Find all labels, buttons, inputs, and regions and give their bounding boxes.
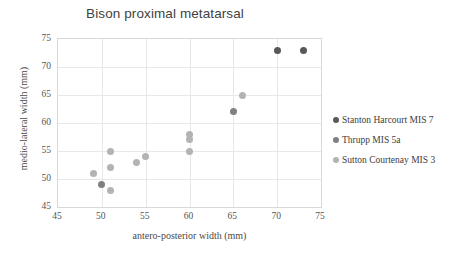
y-axis-tick-label: 55 bbox=[31, 145, 51, 155]
x-axis-tick-label: 75 bbox=[315, 211, 325, 221]
x-axis-tick-label: 55 bbox=[140, 211, 150, 221]
legend-item-label: Sutton Courtenay MIS 3 bbox=[342, 155, 435, 165]
y-axis-tick-label: 50 bbox=[31, 173, 51, 183]
legend-marker-icon bbox=[333, 137, 339, 143]
x-axis-tick-label: 65 bbox=[228, 211, 238, 221]
data-point bbox=[90, 170, 97, 177]
y-axis-tick-label: 70 bbox=[31, 61, 51, 71]
data-point bbox=[107, 148, 114, 155]
data-point bbox=[239, 92, 246, 99]
plot-area bbox=[57, 38, 322, 208]
gridline-horizontal bbox=[58, 95, 321, 96]
data-point bbox=[274, 47, 281, 54]
data-point bbox=[230, 108, 237, 115]
data-point bbox=[107, 187, 114, 194]
legend-marker-icon bbox=[333, 157, 339, 163]
x-axis-tick-label: 50 bbox=[96, 211, 106, 221]
x-axis-tick-label: 60 bbox=[184, 211, 194, 221]
data-point bbox=[98, 181, 105, 188]
x-axis-tick-label: 70 bbox=[271, 211, 281, 221]
data-point bbox=[186, 148, 193, 155]
chart-title: Bison proximal metatarsal bbox=[0, 6, 330, 21]
data-point bbox=[142, 153, 149, 160]
gridline-horizontal bbox=[58, 179, 321, 180]
legend-marker-icon bbox=[333, 117, 339, 123]
legend-item[interactable]: Stanton Harcourt MIS 7 bbox=[333, 112, 435, 128]
gridline-horizontal bbox=[58, 67, 321, 68]
y-axis-label: medio-lateral width (mm) bbox=[18, 44, 29, 194]
y-axis-tick-label: 75 bbox=[31, 33, 51, 43]
y-axis-tick-label: 45 bbox=[31, 201, 51, 211]
data-point bbox=[107, 164, 114, 171]
data-point bbox=[133, 159, 140, 166]
data-point bbox=[186, 136, 193, 143]
data-point bbox=[300, 47, 307, 54]
chart-figure: Bison proximal metatarsal antero-posteri… bbox=[0, 0, 466, 255]
legend-item-label: Stanton Harcourt MIS 7 bbox=[342, 115, 434, 125]
legend-item-label: Thrupp MIS 5a bbox=[342, 135, 401, 145]
legend-item[interactable]: Thrupp MIS 5a bbox=[333, 132, 435, 148]
y-axis-tick-label: 65 bbox=[31, 89, 51, 99]
gridline-horizontal bbox=[58, 123, 321, 124]
chart-legend: Stanton Harcourt MIS 7Thrupp MIS 5aSutto… bbox=[333, 112, 435, 172]
legend-item[interactable]: Sutton Courtenay MIS 3 bbox=[333, 152, 435, 168]
x-axis-label: antero-posterior width (mm) bbox=[57, 230, 322, 241]
x-axis-tick-label: 45 bbox=[52, 211, 62, 221]
y-axis-tick-label: 60 bbox=[31, 117, 51, 127]
